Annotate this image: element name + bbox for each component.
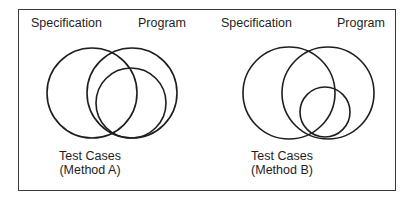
panel-method-a [47, 48, 177, 138]
label-specification-a: Specification [31, 17, 102, 30]
circle-specification-a [47, 48, 137, 138]
label-test-cases-b-line2: (Method B) [248, 164, 316, 177]
label-test-cases-a-line1: Test Cases [56, 150, 124, 163]
circle-specification-b [243, 47, 335, 139]
panel-method-b [243, 47, 374, 139]
label-test-cases-a-line2: (Method A) [56, 164, 124, 177]
label-test-cases-b: Test Cases (Method B) [248, 150, 316, 177]
label-program-b: Program [337, 17, 385, 30]
label-test-cases-a: Test Cases (Method A) [56, 150, 124, 177]
circle-program-a [87, 48, 177, 138]
label-program-a: Program [138, 17, 186, 30]
label-specification-b: Specification [221, 17, 292, 30]
label-test-cases-b-line1: Test Cases [248, 150, 316, 163]
circle-program-b [282, 47, 374, 139]
circle-test-cases-a [96, 68, 166, 138]
circle-test-cases-b [300, 87, 350, 137]
